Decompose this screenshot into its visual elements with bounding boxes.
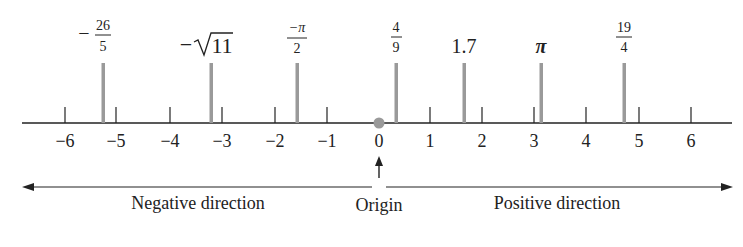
marker-bar-one-point-seven <box>463 63 467 123</box>
label-numerator: 19 <box>617 20 631 35</box>
marker-bar-four-ninths <box>395 63 399 123</box>
negative-direction-arrow <box>22 183 372 191</box>
label-neg-26-over-5: − 26 5 <box>78 18 111 54</box>
tick-label-3: 3 <box>530 131 539 151</box>
arrow-up-icon <box>375 156 383 166</box>
tick-label-neg1: −1 <box>317 131 336 151</box>
arrow-left-icon <box>22 183 34 191</box>
label-numerator: −π <box>289 20 306 35</box>
marker-bars <box>102 63 627 123</box>
tick-label-neg4: −4 <box>160 131 179 151</box>
tick-label-neg2: −2 <box>265 131 284 151</box>
tick-label-0: 0 <box>375 131 384 151</box>
origin-dot <box>374 118 385 129</box>
positive-direction-label: Positive direction <box>494 193 620 213</box>
label-denominator: 4 <box>621 40 628 55</box>
label-numerator: 4 <box>393 20 400 35</box>
tick-label-neg6: −6 <box>55 131 74 151</box>
label-neg-pi-over-2: −π 2 <box>287 20 307 56</box>
arrow-right-icon <box>721 183 733 191</box>
tick-label-1: 1 <box>426 131 435 151</box>
label-four-ninths: 4 9 <box>391 20 402 55</box>
marker-bar-neg-pi-over-2 <box>296 63 300 123</box>
label-nineteen-fourths: 19 4 <box>616 20 632 55</box>
tick-label-6: 6 <box>687 131 696 151</box>
marker-bar-neg-sqrt-11 <box>210 63 214 123</box>
label-one-point-seven: 1.7 <box>452 35 477 57</box>
negative-direction-label: Negative direction <box>131 193 264 213</box>
tick-label-neg5: −5 <box>106 131 125 151</box>
label-pi: π <box>536 35 548 57</box>
marker-bar-nineteen-fourths <box>623 63 627 123</box>
tick-label-neg3: −3 <box>212 131 231 151</box>
label-radicand: 11 <box>211 33 232 58</box>
label-neg-sqrt-11: − 11 <box>180 32 233 58</box>
label-denominator: 5 <box>100 39 107 54</box>
label-sign: − <box>78 22 89 44</box>
origin-arrow <box>375 156 383 178</box>
positive-direction-arrow <box>386 183 733 191</box>
marker-bar-pi <box>540 63 544 123</box>
marker-bar-neg-26-over-5 <box>102 63 106 123</box>
label-sign: − <box>180 32 192 57</box>
tick-label-4: 4 <box>582 131 591 151</box>
tick-labels: −6 −5 −4 −3 −2 −1 0 1 2 3 4 5 6 <box>55 131 695 151</box>
tick-label-5: 5 <box>635 131 644 151</box>
origin-label: Origin <box>356 195 403 215</box>
tick-label-2: 2 <box>478 131 487 151</box>
label-denominator: 9 <box>393 40 400 55</box>
label-denominator: 2 <box>294 41 301 56</box>
label-numerator: 26 <box>96 18 110 33</box>
number-line-diagram: −6 −5 −4 −3 −2 −1 0 1 2 3 4 5 6 − 26 5 −… <box>0 0 743 247</box>
